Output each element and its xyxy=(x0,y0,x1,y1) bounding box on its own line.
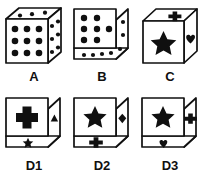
cube-b xyxy=(70,4,134,68)
cube-cell-a: A xyxy=(0,0,68,91)
cube-grid: A xyxy=(0,0,204,181)
cube-d1 xyxy=(2,93,66,157)
cube-a xyxy=(2,4,66,68)
cube-cell-c: C xyxy=(136,0,204,91)
cube-label-d3: D3 xyxy=(162,159,179,173)
cube-d2 xyxy=(70,93,134,157)
cube-cell-d3: D3 xyxy=(136,91,204,182)
cube-label-c: C xyxy=(165,70,174,84)
cube-label-b: B xyxy=(97,70,106,84)
cube-cell-d2: D2 xyxy=(68,91,136,182)
cube-d1-body xyxy=(6,98,60,147)
cube-label-d1: D1 xyxy=(26,159,43,173)
cube-puzzle-figure: A xyxy=(0,0,204,181)
cube-label-d2: D2 xyxy=(94,159,111,173)
cube-cell-b: B xyxy=(68,0,136,91)
cube-c xyxy=(138,4,202,68)
cube-a-front-pips xyxy=(12,26,43,57)
cube-d3 xyxy=(138,93,202,157)
cube-label-a: A xyxy=(29,70,38,84)
cube-cell-d1: D1 xyxy=(0,91,68,182)
